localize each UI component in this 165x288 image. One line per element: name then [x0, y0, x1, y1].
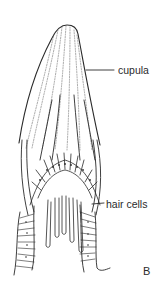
cupula-hair-cell-illustration	[0, 0, 165, 288]
cupula-label: cupula	[118, 64, 149, 76]
panel-letter: B	[143, 265, 150, 277]
cupula-outline	[19, 25, 100, 145]
hair-cells-label: hair cells	[106, 198, 147, 210]
